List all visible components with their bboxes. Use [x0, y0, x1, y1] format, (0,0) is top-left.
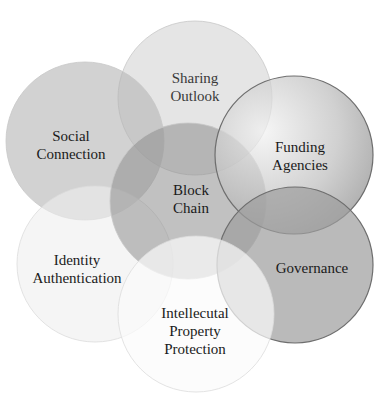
governance-label: Governance	[276, 259, 348, 277]
identity-authentication-label-line: Identity	[32, 251, 121, 269]
intellectual-property-protection-label-line: Property	[161, 322, 228, 340]
sharing-outlook-label-line: Outlook	[170, 87, 219, 105]
intellectual-property-protection-label: IntellecutalPropertyProtection	[161, 304, 228, 358]
blockchain-venn-diagram: SharingOutlookSocialConnectionFundingAge…	[0, 0, 386, 393]
intellectual-property-protection-label-line: Intellecutal	[161, 304, 228, 322]
social-connection-label-line: Connection	[36, 145, 105, 163]
block-chain-label: BlockChain	[173, 181, 209, 217]
funding-agencies-label-line: Agencies	[272, 156, 328, 174]
identity-authentication-label-line: Authentication	[32, 269, 121, 287]
governance-label-line: Governance	[276, 259, 348, 277]
funding-agencies-label: FundingAgencies	[272, 138, 328, 174]
social-connection-label: SocialConnection	[36, 127, 105, 163]
sharing-outlook-label-line: Sharing	[170, 69, 219, 87]
sharing-outlook-label: SharingOutlook	[170, 69, 219, 105]
social-connection-label-line: Social	[36, 127, 105, 145]
identity-authentication-label: IdentityAuthentication	[32, 251, 121, 287]
intellectual-property-protection-label-line: Protection	[161, 340, 228, 358]
block-chain-label-line: Block	[173, 181, 209, 199]
block-chain-label-line: Chain	[173, 199, 209, 217]
funding-agencies-label-line: Funding	[272, 138, 328, 156]
